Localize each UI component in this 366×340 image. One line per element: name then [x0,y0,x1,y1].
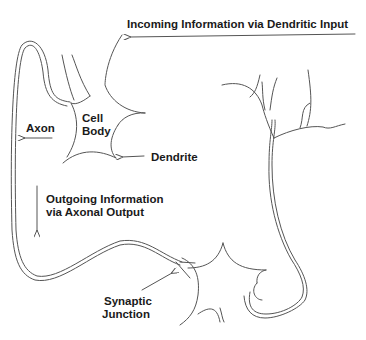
synaptic-arrow-icon [142,273,172,290]
outgoing-label-line2: via Axonal Output [46,206,144,219]
dendrite-arrow-icon [122,156,144,157]
lower-neuron-shape [180,243,266,325]
synaptic-label-line1: Synaptic [104,295,152,308]
cell-body-label-line1: Cell [82,112,103,125]
outgoing-label-line1: Outgoing Information [46,193,164,206]
dendrite-label: Dendrite [151,151,198,164]
axon-label: Axon [26,122,55,135]
dendrite-tree [222,70,345,318]
cell-body-shape [62,35,145,163]
neuron-drawing [0,0,366,340]
incoming-arrow-icon [130,34,355,37]
neuron-diagram: Incoming Information via Dendritic Input… [0,0,366,340]
synaptic-label-line2: Junction [102,308,150,321]
cell-body-label-line2: Body [82,125,111,138]
incoming-label: Incoming Information via Dendritic Input [127,18,348,31]
